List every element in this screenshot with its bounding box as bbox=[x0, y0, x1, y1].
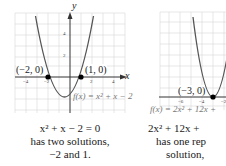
right-function-label: f(x) = 2x² + 12x + bbox=[150, 104, 216, 114]
left-x-tick-neg4: −4 bbox=[23, 79, 28, 84]
left-x-tick-4: 4 bbox=[112, 79, 115, 84]
left-y-axis-label: y bbox=[72, 0, 76, 11]
left-point-label-1: (1, 0) bbox=[85, 64, 107, 75]
left-x-tick-2: 2 bbox=[90, 79, 93, 84]
right-caption-line2: has one rep bbox=[148, 135, 226, 148]
left-caption-equation: x² + x − 2 = 0 bbox=[20, 122, 120, 135]
left-function-label: f(x) = x² + x − 2 bbox=[73, 91, 132, 101]
left-y-tick-2: 2 bbox=[63, 53, 66, 58]
left-caption-line2: has two solutions, bbox=[20, 135, 120, 148]
right-point-label-neg3: (−3, 0) bbox=[178, 85, 205, 96]
left-y-tick-4: 4 bbox=[63, 31, 66, 36]
left-point-label-neg2: (−2, 0) bbox=[16, 64, 43, 75]
right-caption-equation: 2x² + 12x + bbox=[148, 122, 226, 135]
right-caption-line3: solution, bbox=[148, 148, 226, 161]
left-caption-line3: −2 and 1. bbox=[20, 148, 120, 161]
right-point-neg3 bbox=[210, 94, 215, 99]
right-x-tick-neg2: −2 bbox=[221, 99, 226, 104]
left-caption: x² + x − 2 = 0 has two solutions, −2 and… bbox=[20, 122, 120, 161]
left-x-tick-neg2: −2 bbox=[44, 79, 49, 84]
left-point-1 bbox=[78, 74, 83, 79]
left-x-axis-label: x bbox=[125, 70, 129, 81]
right-caption: 2x² + 12x + has one rep solution, bbox=[140, 122, 226, 161]
